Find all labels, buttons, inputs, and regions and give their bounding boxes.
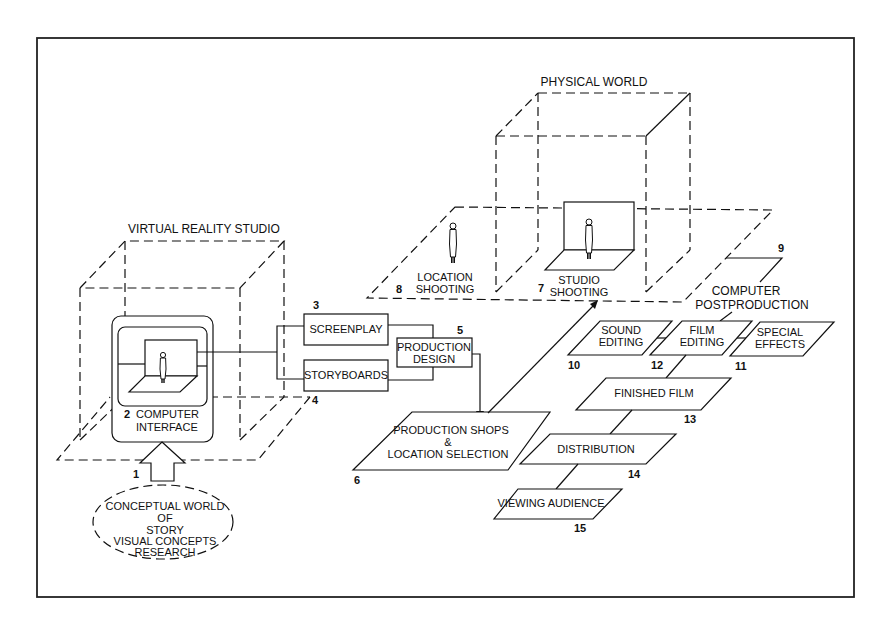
node-label-line: PRODUCTION SHOPS <box>393 424 509 436</box>
node-label-line: RESEARCH <box>134 546 195 558</box>
pw-cube-edge <box>646 250 690 292</box>
node-label-line: CONCEPTUAL WORLD <box>106 500 225 512</box>
postproduction-shape <box>726 258 782 282</box>
node-number-13: 13 <box>684 413 696 425</box>
node-label-film: FILM <box>689 324 714 336</box>
node-number-8: 8 <box>396 283 402 295</box>
region-title-physical-world: PHYSICAL WORLD <box>541 75 648 89</box>
person-figure-icon <box>160 352 166 383</box>
node-number-15: 15 <box>574 522 586 534</box>
connector-line <box>720 312 732 321</box>
node-label-design: DESIGN <box>413 353 455 365</box>
connector-bracket <box>277 326 304 379</box>
node-number-11: 11 <box>735 360 747 372</box>
node-label-special: SPECIAL <box>757 326 803 338</box>
node-label-line: OF <box>157 512 173 524</box>
arrow-line <box>472 354 480 412</box>
node-label-shooting: SHOOTING <box>416 283 475 295</box>
node-label-editing: EDITING <box>680 336 725 348</box>
connector-line <box>388 325 433 338</box>
node-label-sound: SOUND <box>601 324 641 336</box>
node-label-shooting: SHOOTING <box>550 286 609 298</box>
node-label-editing: EDITING <box>599 336 644 348</box>
node-label-viewing-audience: VIEWING AUDIENCE <box>498 497 605 509</box>
node-label-postproduction: POSTPRODUCTION <box>695 298 808 312</box>
connector-line <box>388 367 433 380</box>
vr-cube-top <box>80 241 284 288</box>
block-arrow-icon <box>140 442 185 481</box>
node-number-10: 10 <box>568 359 580 371</box>
node-label-storyboards: STORYBOARDS <box>304 369 388 381</box>
node-label-line: LOCATION SELECTION <box>388 448 509 460</box>
connector-line <box>610 410 632 434</box>
node-number-6: 6 <box>354 474 360 486</box>
node-label-screenplay: SCREENPLAY <box>309 323 383 335</box>
region-title-virtual-reality-studio: VIRTUAL REALITY STUDIO <box>128 222 280 236</box>
node-label-interface: INTERFACE <box>136 421 198 433</box>
connector-line <box>666 355 686 378</box>
node-number-5: 5 <box>457 324 463 336</box>
node-number-9: 9 <box>778 242 784 254</box>
node-label-distribution: DISTRIBUTION <box>557 443 635 455</box>
node-number-3: 3 <box>313 299 319 311</box>
node-label-effects: EFFECTS <box>755 338 805 350</box>
node-label-studio: STUDIO <box>558 274 600 286</box>
node-label-computer: COMPUTER <box>136 408 199 420</box>
person-figure-icon <box>586 219 593 259</box>
film-production-diagram: VIRTUAL REALITY STUDIO 2 COMPUTER IN <box>0 0 892 634</box>
node-label-finished-film: FINISHED FILM <box>614 387 693 399</box>
pw-cube-edge <box>496 93 538 136</box>
pw-cube-edge <box>496 250 538 292</box>
node-label-location: LOCATION <box>417 271 472 283</box>
node-label-computer: COMPUTER <box>712 284 781 298</box>
person-figure-icon <box>450 223 457 263</box>
node-number-7: 7 <box>538 282 544 294</box>
node-number-4: 4 <box>312 394 319 406</box>
node-number-12: 12 <box>651 359 663 371</box>
node-number-14: 14 <box>628 468 641 480</box>
node-label-production: PRODUCTION <box>397 341 471 353</box>
pw-cube-edge <box>646 93 690 136</box>
physical-world: PHYSICAL WORLD 7 STUDIO SHOOTING <box>367 75 773 302</box>
postproduction-group: 9 COMPUTER POSTPRODUCTION SOUND EDITING … <box>494 242 834 534</box>
node-label-line: & <box>444 436 452 448</box>
node-number-1: 1 <box>133 468 139 480</box>
vr-cube-edge <box>240 397 284 440</box>
connector-line <box>556 464 578 489</box>
virtual-reality-studio: VIRTUAL REALITY STUDIO 2 COMPUTER IN <box>57 222 310 559</box>
node-number-2: 2 <box>124 408 130 420</box>
